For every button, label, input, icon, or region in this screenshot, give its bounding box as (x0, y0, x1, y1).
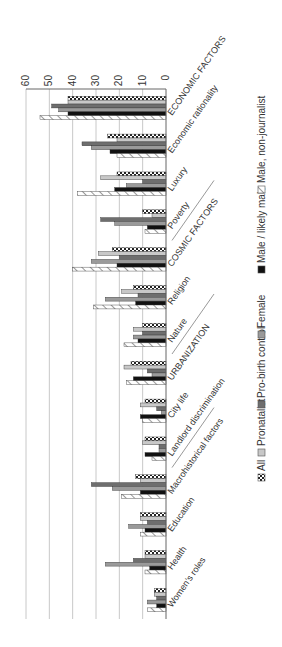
bar-group (94, 286, 166, 309)
bar (138, 339, 166, 343)
category-label: Economic rationality (165, 83, 220, 155)
bar (68, 112, 166, 116)
bar-group (101, 210, 166, 233)
bar (140, 479, 166, 483)
tick-label: 40 (67, 75, 78, 87)
bar (140, 513, 166, 517)
bar (110, 150, 166, 154)
light-gray-swatch-icon (258, 449, 265, 456)
tick-label: 30 (90, 75, 101, 87)
tick-label: 60 (20, 75, 31, 87)
bar (124, 343, 166, 347)
legend-item: Male / likely male (256, 186, 267, 273)
hatched-swatch-icon (258, 186, 265, 193)
bar (131, 361, 166, 365)
checker-swatch-icon (258, 474, 265, 481)
bar (150, 566, 166, 570)
bar (105, 562, 166, 566)
bar (145, 570, 166, 574)
bar-group (147, 588, 166, 611)
legend-label: Female (256, 294, 267, 328)
bar (157, 407, 166, 411)
bar (117, 263, 166, 267)
gridlines (26, 89, 143, 619)
bar (145, 528, 166, 532)
bar-group (91, 475, 166, 498)
bar (52, 104, 166, 108)
bar (68, 96, 166, 100)
bar (147, 520, 166, 524)
category-label: Luxury (165, 165, 189, 193)
bar (133, 286, 166, 290)
bar (143, 210, 166, 214)
category-label: Poverty (165, 200, 191, 231)
bar (133, 377, 166, 381)
bar (98, 252, 166, 256)
bar-chart: 0102030405060 ECONOMIC FACTORSEconomic r… (0, 0, 282, 647)
bar (152, 373, 166, 377)
bar (117, 172, 166, 176)
bar (77, 191, 166, 195)
bar (91, 259, 166, 263)
bar (152, 214, 166, 218)
rotated-chart-canvas: 0102030405060 ECONOMIC FACTORSEconomic r… (0, 0, 282, 647)
bar (115, 188, 166, 192)
bar (68, 100, 166, 104)
legend-item: Male, non-journalist (256, 96, 267, 193)
legend-label: Male, non-journalist (256, 96, 267, 183)
bar (91, 146, 166, 150)
bar (122, 289, 166, 293)
bar (115, 222, 166, 226)
bar (108, 134, 166, 138)
bar (94, 305, 166, 309)
bar-group (129, 513, 166, 536)
bar (140, 415, 166, 419)
mid-gray-swatch-icon (258, 331, 265, 338)
bar (140, 517, 166, 521)
tick-label: 0 (160, 75, 171, 81)
bar-group (124, 323, 166, 346)
bar (147, 225, 166, 229)
bar (73, 267, 166, 271)
category-labels: ECONOMIC FACTORSEconomic rationalityLuxu… (165, 34, 227, 609)
bar (126, 184, 166, 188)
bar (129, 524, 166, 528)
tick-label: 10 (137, 75, 148, 87)
bar (143, 441, 166, 445)
legend-label: All (256, 460, 267, 471)
bar-group (140, 399, 166, 422)
bar (140, 532, 166, 536)
category-label: COSMIC FACTORS (165, 197, 220, 269)
bar (122, 494, 166, 498)
bar-groups (40, 96, 166, 612)
bar (133, 558, 166, 562)
bar (136, 301, 166, 305)
legend-item: All (256, 460, 267, 481)
bar (152, 456, 166, 460)
bar (143, 419, 166, 423)
bar (101, 218, 166, 222)
bar (147, 369, 166, 373)
bar (126, 381, 166, 385)
bar (59, 108, 166, 112)
bar (147, 600, 166, 604)
tick-label: 20 (113, 75, 124, 87)
bar (159, 445, 166, 449)
bar (154, 588, 166, 592)
category-label: Health (165, 544, 188, 571)
category-label: Nature (165, 316, 189, 344)
legend-label: Male / likely male (256, 186, 267, 263)
tick-label: 50 (43, 75, 54, 87)
bar (145, 453, 166, 457)
bar (145, 229, 166, 233)
bar (143, 323, 166, 327)
bar (145, 554, 166, 558)
black-swatch-icon (258, 266, 265, 273)
bar-group (77, 172, 166, 195)
bar (157, 604, 166, 608)
bar-group (82, 134, 166, 157)
bar (117, 154, 166, 158)
legend-item: Pro-birth control (256, 327, 267, 408)
dark-gray-swatch-icon (258, 401, 265, 408)
bar (140, 490, 166, 494)
